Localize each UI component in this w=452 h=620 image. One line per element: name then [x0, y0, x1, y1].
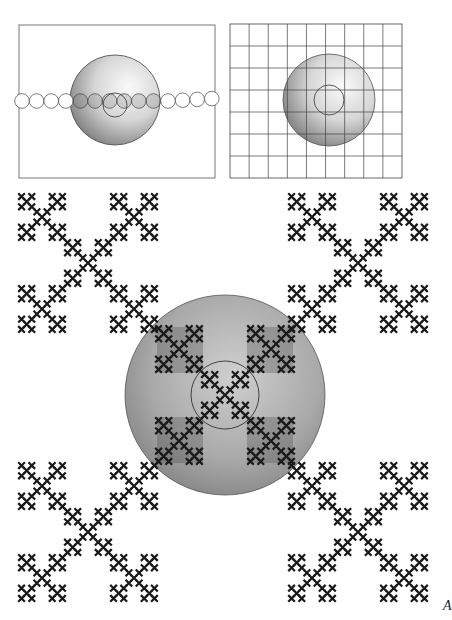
row-circle: [132, 94, 147, 109]
fractal-cross: [330, 504, 335, 509]
fractal-cross: [381, 194, 386, 199]
fractal-cross: [96, 540, 101, 545]
fractal-cross: [50, 327, 55, 332]
fractal-cross: [412, 463, 417, 468]
fractal-cross: [50, 565, 55, 570]
fractal-cross: [422, 555, 427, 560]
fractal-cross: [152, 504, 157, 509]
fractal-cross: [111, 204, 116, 209]
fractal-cross: [289, 565, 294, 570]
row-circle: [175, 93, 190, 108]
fractal-cross: [19, 494, 24, 499]
row-circle: [190, 92, 205, 107]
row-circle: [161, 94, 176, 109]
fractal-cross: [96, 240, 101, 245]
fractal-cross: [330, 463, 335, 468]
fractal-cross: [142, 565, 147, 570]
fractal-cross: [96, 519, 101, 524]
fractal-cross: [121, 586, 126, 591]
fractal-cross: [121, 596, 126, 601]
fractal-cross: [75, 240, 80, 245]
fractal-cross: [121, 296, 126, 301]
fractal-cross: [391, 565, 396, 570]
fractal-cross: [50, 596, 55, 601]
fractal-cross: [299, 317, 304, 322]
fractal-cross: [19, 194, 24, 199]
fractal-cross: [60, 317, 65, 322]
fractal-cross: [381, 296, 386, 301]
fractal-cross: [366, 509, 371, 514]
fractal-cross: [422, 494, 427, 499]
fractal-cross: [381, 596, 386, 601]
fractal-cross: [289, 296, 294, 301]
fractal-cross: [19, 555, 24, 560]
fractal-cross: [96, 281, 101, 286]
fractal-cross: [50, 317, 55, 322]
fractal-cross: [60, 504, 65, 509]
fractal-cross: [320, 327, 325, 332]
fractal-cross: [19, 235, 24, 240]
fractal-cross: [422, 317, 427, 322]
fractal-cross: [391, 327, 396, 332]
fractal-cross: [121, 504, 126, 509]
fractal-cross: [289, 494, 294, 499]
fractal-cross: [299, 225, 304, 230]
fractal-cross: [50, 296, 55, 301]
fractal-cross: [320, 473, 325, 478]
fractal-cross: [60, 596, 65, 601]
fractal-cross: [412, 555, 417, 560]
fractal-cross: [412, 565, 417, 570]
fractal-cross: [330, 286, 335, 291]
fractal-cross: [96, 550, 101, 555]
fractal-cross: [391, 204, 396, 209]
fractal-cross: [60, 463, 65, 468]
fractal-cross: [289, 204, 294, 209]
fractal-cross: [391, 463, 396, 468]
fractal-cross: [376, 271, 381, 276]
fractal-cross: [422, 194, 427, 199]
fractal-cross: [320, 586, 325, 591]
fractal-cross: [345, 250, 350, 255]
fractal-cross: [422, 463, 427, 468]
fractal-cross: [422, 596, 427, 601]
fractal-cross: [345, 519, 350, 524]
row-circle: [88, 94, 103, 109]
fractal-cross: [320, 286, 325, 291]
fractal-cross: [65, 540, 70, 545]
fractal-cross: [142, 296, 147, 301]
fractal-cross: [299, 504, 304, 509]
fractal-cross: [412, 204, 417, 209]
fractal-cross: [345, 550, 350, 555]
fractal-cross: [111, 225, 116, 230]
panel-c: [19, 194, 427, 601]
fractal-cross: [381, 565, 386, 570]
fractal-cross: [289, 473, 294, 478]
fractal-cross: [75, 550, 80, 555]
fractal-cross: [29, 494, 34, 499]
fractal-cross: [422, 504, 427, 509]
fractal-cross: [412, 327, 417, 332]
fractal-cross: [96, 250, 101, 255]
fractal-cross: [19, 317, 24, 322]
fractal-cross: [50, 194, 55, 199]
fractal-cross: [422, 204, 427, 209]
fractal-cross: [142, 463, 147, 468]
fractal-cross: [422, 327, 427, 332]
fractal-cross: [106, 540, 111, 545]
fractal-cross: [29, 463, 34, 468]
fractal-cross: [381, 327, 386, 332]
fractal-cross: [19, 586, 24, 591]
fractal-cross: [335, 540, 340, 545]
fractal-cross: [60, 494, 65, 499]
fractal-cross: [19, 286, 24, 291]
fractal-cross: [111, 473, 116, 478]
fractal-cross: [391, 586, 396, 591]
fractal-cross: [152, 296, 157, 301]
fractal-cross: [121, 225, 126, 230]
fractal-cross: [121, 463, 126, 468]
fractal-cross: [152, 317, 157, 322]
fractal-cross: [111, 504, 116, 509]
fractal-cross: [366, 519, 371, 524]
fractal-cross: [422, 296, 427, 301]
